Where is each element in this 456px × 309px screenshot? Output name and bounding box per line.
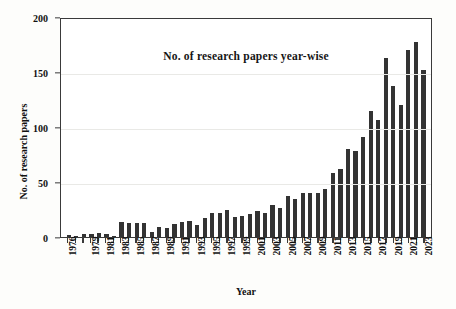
x-label-slot: 2013 (344, 244, 352, 284)
y-tick-label: 100 (33, 123, 48, 134)
x-label-slot: 1981 (102, 244, 110, 284)
bar (135, 223, 139, 237)
x-label-slot (382, 244, 390, 284)
bar (180, 222, 184, 237)
x-label-slot (109, 244, 117, 284)
bar (240, 216, 244, 237)
bar (270, 205, 274, 237)
x-tick-label: 2023 (424, 237, 434, 256)
x-label-slot: 1979 (87, 244, 95, 284)
x-label-slot: 1989 (163, 244, 171, 284)
bar (338, 169, 342, 237)
x-label-slot: 2021 (405, 244, 413, 284)
x-label-slot (261, 244, 269, 284)
bar (391, 86, 395, 237)
bar (203, 218, 207, 237)
x-label-slot: 2007 (299, 244, 307, 284)
x-label-slot: 1985 (132, 244, 140, 284)
x-label-slot: 1983 (117, 244, 125, 284)
bar (248, 214, 252, 237)
bar (187, 221, 191, 238)
x-label-slot: 1999 (238, 244, 246, 284)
x-axis-labels: 1976197919811983198519871989199119931995… (60, 244, 432, 284)
bar (323, 189, 327, 237)
bar (293, 199, 297, 238)
gridline (61, 129, 431, 130)
x-label-slot: 1993 (193, 244, 201, 284)
x-label-slot (170, 244, 178, 284)
bar (195, 225, 199, 237)
bar (406, 50, 410, 237)
bar (225, 210, 229, 238)
x-label-slot: 2019 (390, 244, 398, 284)
bar (316, 193, 320, 237)
x-label-slot (140, 244, 148, 284)
x-label-slot (246, 244, 254, 284)
bar (286, 196, 290, 237)
bar (361, 137, 365, 237)
y-tick-label: 200 (33, 13, 48, 24)
x-label-slot (216, 244, 224, 284)
bar (384, 58, 388, 237)
x-label-slot (337, 244, 345, 284)
x-label-slot: 2003 (269, 244, 277, 284)
y-tick-label: 0 (43, 233, 48, 244)
x-label-slot: 1995 (208, 244, 216, 284)
x-label-slot: 2005 (284, 244, 292, 284)
x-label-slot (352, 244, 360, 284)
bar (142, 223, 146, 237)
x-label-slot (72, 244, 80, 284)
bar (376, 120, 380, 237)
x-label-slot: 2017 (375, 244, 383, 284)
gridline (61, 74, 431, 75)
x-label-slot (322, 244, 330, 284)
y-axis-title: No. of research papers (18, 67, 29, 237)
bar (255, 211, 259, 237)
x-label-slot: 1997 (223, 244, 231, 284)
chart-title: No. of research papers year-wise (60, 50, 432, 62)
x-label-slot (291, 244, 299, 284)
chart-figure: No. of research papers 050100150200 No. … (0, 0, 456, 309)
x-label-slot (200, 244, 208, 284)
gridline (61, 184, 431, 185)
x-label-slot (79, 244, 87, 284)
bar (346, 149, 350, 237)
x-label-slot: 1987 (147, 244, 155, 284)
x-label-slot (307, 244, 315, 284)
bar (127, 223, 131, 237)
bar (301, 193, 305, 237)
x-label-slot (125, 244, 133, 284)
bar (353, 151, 357, 237)
x-label-slot: 2009 (314, 244, 322, 284)
x-axis-title: Year (60, 286, 432, 297)
x-label-slot: 2001 (253, 244, 261, 284)
bar (308, 193, 312, 237)
bar (278, 208, 282, 237)
x-label-slot: 1976 (64, 244, 72, 284)
bar (218, 213, 222, 237)
x-label-slot (94, 244, 102, 284)
x-tick-mark (82, 238, 83, 243)
x-label-slot: 1991 (178, 244, 186, 284)
bar (210, 213, 214, 237)
bar (331, 173, 335, 237)
y-axis: No. of research papers 050100150200 (0, 18, 60, 238)
bar (399, 105, 403, 237)
x-label-slot (367, 244, 375, 284)
y-tick-label: 50 (38, 178, 48, 189)
x-label-slot: 2023 (420, 244, 428, 284)
y-tick-label: 150 (33, 68, 48, 79)
x-label-slot: 2015 (360, 244, 368, 284)
x-label-slot (231, 244, 239, 284)
bar (119, 222, 123, 237)
x-label-slot (413, 244, 421, 284)
bar (421, 70, 425, 237)
bar (82, 234, 86, 237)
x-label-slot (276, 244, 284, 284)
x-label-slot (155, 244, 163, 284)
x-label-slot (185, 244, 193, 284)
bar (172, 224, 176, 237)
x-label-slot (397, 244, 405, 284)
bar (263, 213, 267, 237)
bar (414, 42, 418, 237)
